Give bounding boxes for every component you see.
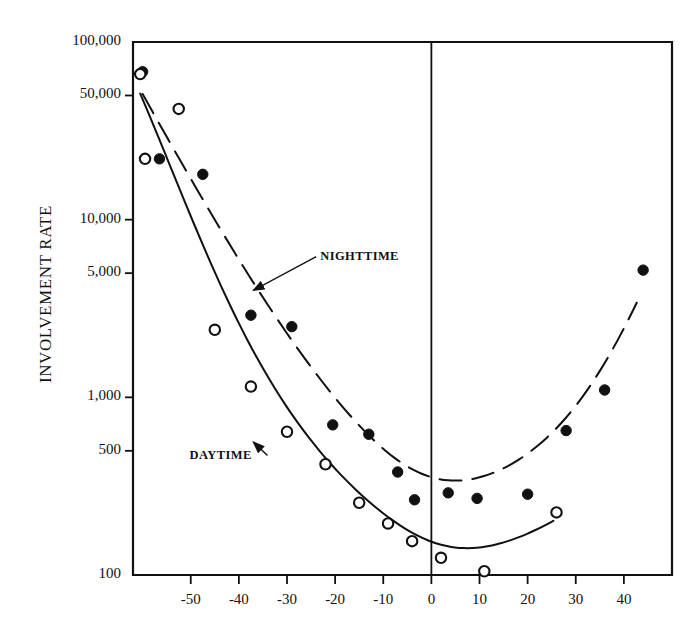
data-point xyxy=(328,420,338,430)
x-axis-tick-label: 10 xyxy=(455,591,505,608)
data-point xyxy=(392,467,402,477)
data-point xyxy=(479,566,489,576)
data-point xyxy=(282,427,292,437)
x-axis-tick-label: -30 xyxy=(262,591,312,608)
y-axis-tick-label: 1,000 xyxy=(31,387,121,404)
data-point xyxy=(561,425,571,435)
x-axis-tick-label: 40 xyxy=(599,591,649,608)
x-axis-tick-label: 20 xyxy=(503,591,553,608)
series-daytime xyxy=(135,69,562,577)
x-axis-tick-label: -10 xyxy=(358,591,408,608)
data-point xyxy=(443,488,453,498)
data-point xyxy=(140,154,150,164)
annotation-leader-nighttime xyxy=(253,257,316,291)
y-axis-tick-label: 10,000 xyxy=(31,210,121,227)
data-point xyxy=(364,429,374,439)
plot-frame xyxy=(133,42,672,575)
data-point xyxy=(320,459,330,469)
data-point xyxy=(599,385,609,395)
annotation-label-daytime: DAYTIME xyxy=(190,448,252,463)
trend-curve-daytime xyxy=(140,94,553,549)
data-point xyxy=(522,489,532,499)
trend-curve-nighttime xyxy=(143,94,637,481)
x-axis-tick-label: 30 xyxy=(551,591,601,608)
chart-figure: INVOLVEMENT RATE -50-40-30-20-1001020304… xyxy=(0,0,696,644)
annotation-label-nighttime: NIGHTTIME xyxy=(320,249,399,264)
data-point xyxy=(551,507,561,517)
series-nighttime xyxy=(137,67,648,505)
data-point xyxy=(354,498,364,508)
data-point xyxy=(154,154,164,164)
y-axis-tick-label: 100 xyxy=(31,565,121,582)
data-point xyxy=(472,493,482,503)
data-point xyxy=(246,310,256,320)
data-point xyxy=(383,518,393,528)
data-point xyxy=(174,104,184,114)
data-point xyxy=(436,553,446,563)
x-axis-tick-label: -20 xyxy=(310,591,360,608)
data-point xyxy=(409,495,419,505)
x-axis-tick-label: -40 xyxy=(214,591,264,608)
y-axis-tick-label: 100,000 xyxy=(31,32,121,49)
data-point xyxy=(407,536,417,546)
annotation-leader-daytime xyxy=(253,442,267,456)
x-axis-tick-label: 0 xyxy=(406,591,456,608)
data-point xyxy=(135,69,145,79)
data-point xyxy=(198,169,208,179)
data-point xyxy=(210,325,220,335)
data-point xyxy=(638,265,648,275)
y-axis-tick-label: 5,000 xyxy=(31,263,121,280)
y-axis-tick-label: 50,000 xyxy=(31,85,121,102)
data-point xyxy=(246,381,256,391)
data-point xyxy=(287,321,297,331)
x-axis-tick-label: -50 xyxy=(166,591,216,608)
y-axis-tick-label: 500 xyxy=(31,441,121,458)
